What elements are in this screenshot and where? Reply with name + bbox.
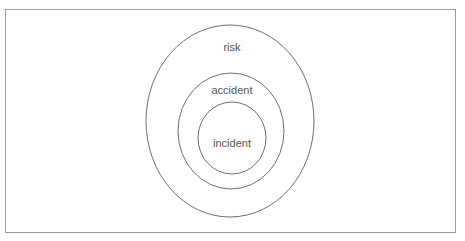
ellipse-risk [146, 25, 314, 217]
label-risk: risk [223, 41, 241, 53]
label-incident: incident [213, 137, 251, 149]
nested-ellipse-diagram: riskaccidentincident [0, 0, 465, 241]
label-accident: accident [212, 84, 253, 96]
